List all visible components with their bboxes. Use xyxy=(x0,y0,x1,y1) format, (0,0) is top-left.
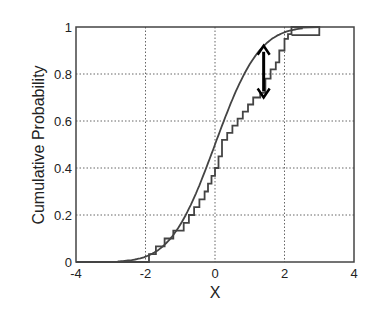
plot-curves xyxy=(76,27,319,262)
x-tick-labels: -4-2024 xyxy=(70,266,357,281)
x-tick-label: -2 xyxy=(140,266,152,281)
ks-cdf-chart: -4-2024 00.20.40.60.81 X Cumulative Prob… xyxy=(0,0,373,314)
y-axis-label: Cumulative Probability xyxy=(30,65,47,224)
y-tick-label: 0.4 xyxy=(54,161,72,176)
y-tick-label: 0.8 xyxy=(54,67,72,82)
theoretical-cdf-curve xyxy=(118,27,320,261)
x-tick-label: 2 xyxy=(281,266,288,281)
ks-distance-arrow xyxy=(258,46,270,98)
x-tick-label: 4 xyxy=(350,266,357,281)
y-tick-label: 0.2 xyxy=(54,208,72,223)
y-tick-label: 0.6 xyxy=(54,114,72,129)
y-tick-label: 1 xyxy=(65,20,72,35)
empirical-cdf-steps xyxy=(76,27,319,262)
x-axis-label: X xyxy=(210,284,221,301)
x-tick-label: 0 xyxy=(211,266,218,281)
y-tick-labels: 00.20.40.60.81 xyxy=(54,20,72,270)
y-tick-label: 0 xyxy=(65,255,72,270)
